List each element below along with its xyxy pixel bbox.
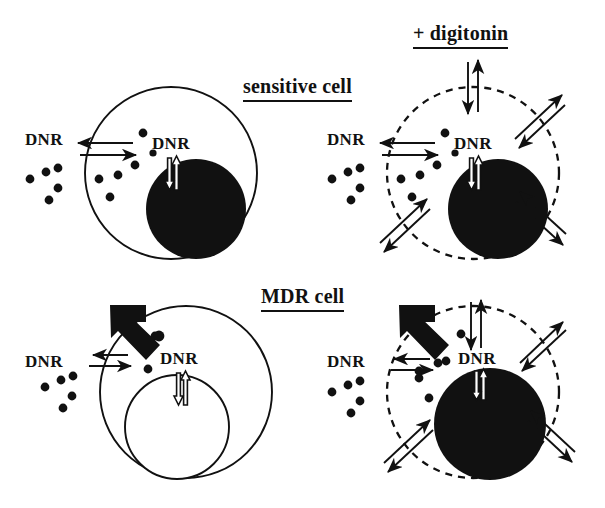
mdr-efflux-pump [110,305,164,360]
extracellular-dnr-dots [328,377,365,418]
extracellular-dnr-dots [328,164,365,205]
mdr-efflux-pump [399,305,449,360]
figure-canvas: + digitonin sensitive cell MDR cell DNR … [0,0,605,508]
pore-arrow-sw-out [388,430,433,472]
nucleus-filled [434,368,546,480]
nucleus-filled [448,159,548,259]
extracellular-dnr-dots [41,372,78,413]
panel-sensitive-digitonin [328,60,566,259]
pore-arrow-sw-in [384,420,430,463]
intracellular-dnr-dots [95,129,157,202]
nucleus-filled [146,159,246,259]
pore-arrow-ne-in [519,105,565,148]
panel-mdr-untreated [41,305,272,479]
intracellular-dnr-dots [397,129,459,202]
pore-arrow-ne-out [520,322,563,363]
panel-sensitive-untreated [26,87,257,259]
pore-arrow-sw-in [380,199,427,243]
pumped-dnr-dot [154,331,165,342]
pore-arrow-ne-in [522,330,566,371]
pore-arrow-sw-out [384,209,430,252]
panel-mdr-digitonin [328,300,575,480]
extracellular-dnr-dots [26,164,63,205]
diagram-vector-layer [0,0,605,508]
